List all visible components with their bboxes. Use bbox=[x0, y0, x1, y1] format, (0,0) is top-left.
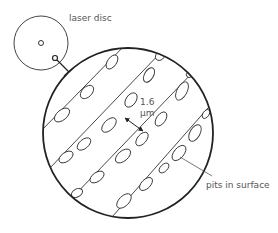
small-disc bbox=[14, 16, 73, 76]
pit-tracks bbox=[40, 40, 215, 225]
track-spacing-value: 1.6 bbox=[140, 97, 155, 108]
magnified-spot-icon bbox=[53, 56, 58, 61]
track-spacing-label: 1.6 μm bbox=[140, 97, 155, 119]
magnified-circle bbox=[43, 48, 213, 218]
track-1 bbox=[40, 40, 130, 132]
pits-leader-line bbox=[180, 157, 212, 176]
pits-label: pits in surface bbox=[206, 180, 270, 190]
laser-disc-diagram bbox=[0, 0, 278, 233]
track-spacing-unit: μm bbox=[140, 108, 155, 119]
disc-center-hole-icon bbox=[39, 41, 44, 46]
distance-arrow-icon bbox=[125, 118, 143, 131]
laser-disc-label: laser disc bbox=[69, 13, 112, 23]
